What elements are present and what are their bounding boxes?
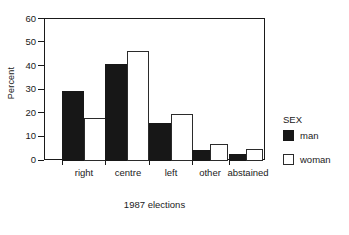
bar-other-man xyxy=(192,150,210,161)
y-tick-label-50: 50 xyxy=(10,37,36,47)
bar-centre-man xyxy=(105,64,127,161)
bar-left-man xyxy=(149,123,171,161)
x-tick-mark-2 xyxy=(149,160,150,165)
x-tick-mark-0 xyxy=(62,160,63,165)
legend: SEX man woman xyxy=(283,114,347,165)
x-axis-title: 1987 elections xyxy=(44,199,265,210)
legend-item-man: man xyxy=(283,130,347,141)
bar-chart-figure: Percent 60 50 40 30 20 10 0 right centre… xyxy=(0,0,349,235)
x-tick-mark-3 xyxy=(192,160,193,165)
y-tick-label-30: 30 xyxy=(10,84,36,94)
bar-other-woman xyxy=(210,144,228,161)
y-tick-label-20: 20 xyxy=(10,108,36,118)
x-category-label-centre: centre xyxy=(115,167,141,178)
bar-left-woman xyxy=(171,114,193,161)
y-tick-label-0: 0 xyxy=(10,155,36,165)
x-category-label-left: left xyxy=(165,167,178,178)
x-category-label-other: other xyxy=(199,167,221,178)
bar-right-man xyxy=(62,91,84,161)
legend-label-man: man xyxy=(300,130,318,141)
x-category-label-abstained: abstained xyxy=(227,167,268,178)
x-category-label-right: right xyxy=(75,167,93,178)
y-tick-label-40: 40 xyxy=(10,61,36,71)
y-tick-label-60: 60 xyxy=(10,14,36,24)
legend-swatch-woman-icon xyxy=(283,154,294,165)
legend-label-woman: woman xyxy=(300,154,331,165)
bar-abstained-man xyxy=(229,154,246,161)
bar-abstained-woman xyxy=(246,149,263,161)
legend-title: SEX xyxy=(283,114,347,125)
x-tick-mark-1 xyxy=(105,160,106,165)
y-tick-label-10: 10 xyxy=(10,131,36,141)
x-tick-mark-4 xyxy=(229,160,230,165)
legend-item-woman: woman xyxy=(283,154,347,165)
bar-centre-woman xyxy=(127,51,149,161)
legend-swatch-man-icon xyxy=(283,130,294,141)
y-tick-mark-0 xyxy=(38,160,44,161)
bar-right-woman xyxy=(84,118,106,161)
